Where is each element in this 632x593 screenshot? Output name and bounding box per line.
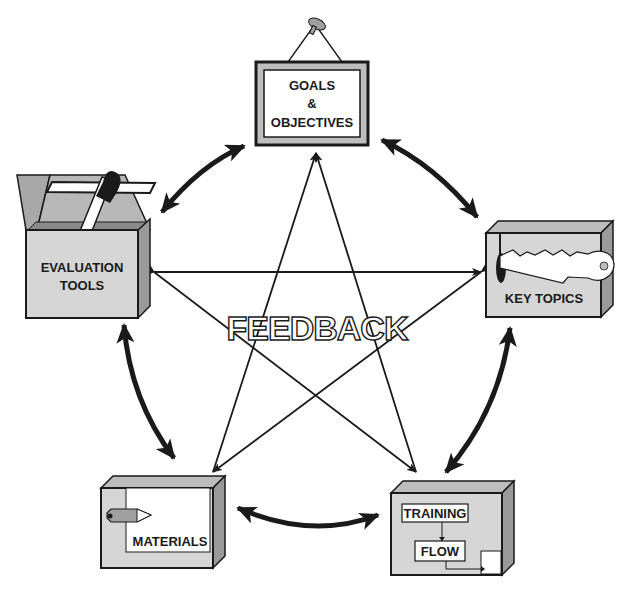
cycle-arrow-training-materials [238,508,378,526]
star-arrow-key-materials [213,272,481,472]
goals-label-line-2: & [307,96,316,111]
cycle-arrow-key-training [446,328,510,472]
evaluation-label-line-1: EVALUATION [41,260,124,275]
materials-label: MATERIALS [133,534,208,549]
star-arrow-eval-training [154,272,416,472]
goals-label-line-1: GOALS [289,78,336,93]
hanging-sign-icon [288,16,342,62]
cycle-arrow-goals-key [382,140,477,217]
training-label: TRAINING [404,506,467,521]
node-evaluation-tools: EVALUATION TOOLS [17,171,155,318]
flow-label: FLOW [421,544,460,559]
evaluation-label-line-2: TOOLS [60,278,105,293]
node-training-flow: TRAINING FLOW [391,481,514,575]
open-box-ruler-icon [17,171,155,231]
node-materials: MATERIALS [101,476,225,568]
goals-label-line-3: OBJECTIVES [271,115,354,130]
cycle-arrow-eval-goals [162,146,244,212]
node-goals-objectives: GOALS & OBJECTIVES [256,16,368,145]
feedback-center-label: FEEDBACK [227,309,409,347]
cycle-arrow-materials-eval [124,325,174,458]
key-topics-label: KEY TOPICS [505,291,584,306]
node-key-topics: KEY TOPICS [486,221,614,317]
feedback-cycle-diagram: GOALS & OBJECTIVES EVALUATION TOOLS KEY … [0,0,632,593]
